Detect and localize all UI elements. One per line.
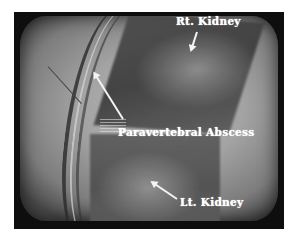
crt-screen [20,16,278,221]
label-lt-kidney: Lt. Kidney [180,196,243,208]
label-rt-kidney: Rt. Kidney [176,15,241,27]
ultrasound-photo: Rt. Kidney Paravertebral Abscess Lt. Kid… [14,12,284,229]
label-paravertebral-abscess: Paravertebral Abscess [118,126,255,138]
